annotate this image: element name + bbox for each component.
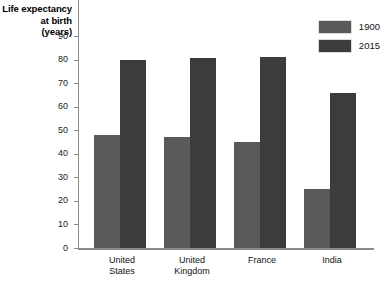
bar-india-1900 xyxy=(304,189,330,248)
y-tick-label-70: 70 xyxy=(34,79,68,88)
y-tick-20 xyxy=(74,201,79,202)
bar-united-states-2015 xyxy=(120,60,146,248)
y-tick-40 xyxy=(74,154,79,155)
bar-france-2015 xyxy=(260,57,286,248)
bar-united-states-1900 xyxy=(94,135,120,248)
y-tick-70 xyxy=(74,83,79,84)
life-expectancy-bar-chart: Life expectancy at birth (years) 1900 20… xyxy=(0,0,388,286)
x-axis-label-france: France xyxy=(230,255,294,266)
y-axis-line xyxy=(78,0,79,248)
y-tick-60 xyxy=(74,107,79,108)
y-tick-label-40: 40 xyxy=(34,149,68,158)
bar-united-kingdom-2015 xyxy=(190,58,216,248)
y-tick-label-80: 80 xyxy=(34,55,68,64)
y-axis-title-line-2: at birth xyxy=(0,15,72,27)
x-axis-label-line-2: States xyxy=(90,266,154,277)
y-tick-0 xyxy=(74,248,79,249)
x-axis-label-line-1: France xyxy=(230,255,294,266)
bar-united-kingdom-1900 xyxy=(164,137,190,248)
y-tick-label-90: 90 xyxy=(34,32,68,41)
y-tick-30 xyxy=(74,177,79,178)
y-tick-10 xyxy=(74,224,79,225)
x-axis-line xyxy=(78,248,374,250)
bar-france-1900 xyxy=(234,142,260,248)
y-tick-90 xyxy=(74,36,79,37)
y-tick-50 xyxy=(74,130,79,131)
y-tick-label-20: 20 xyxy=(34,196,68,205)
y-tick-label-60: 60 xyxy=(34,102,68,111)
y-tick-label-30: 30 xyxy=(34,173,68,182)
plot-area: 9080706050403020100 UnitedStatesUnitedKi… xyxy=(78,0,388,249)
y-tick-label-10: 10 xyxy=(34,220,68,229)
y-axis-title-line-1: Life expectancy xyxy=(0,3,72,15)
y-tick-label-0: 0 xyxy=(34,244,68,253)
x-axis-label-united-kingdom: UnitedKingdom xyxy=(160,255,224,277)
x-axis-label-line-1: United xyxy=(90,255,154,266)
y-tick-80 xyxy=(74,60,79,61)
x-axis-label-line-1: India xyxy=(300,255,364,266)
x-axis-label-line-1: United xyxy=(160,255,224,266)
bar-india-2015 xyxy=(330,93,356,248)
x-axis-label-line-2: Kingdom xyxy=(160,266,224,277)
x-axis-label-united-states: UnitedStates xyxy=(90,255,154,277)
x-axis-label-india: India xyxy=(300,255,364,266)
y-tick-label-50: 50 xyxy=(34,126,68,135)
